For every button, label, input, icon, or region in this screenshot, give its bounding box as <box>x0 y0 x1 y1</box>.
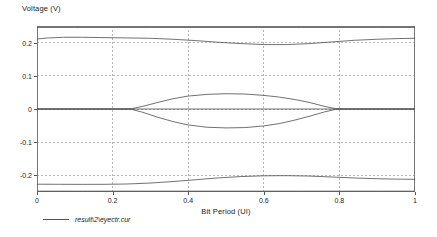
x-tick-mark <box>415 192 416 195</box>
y-tick-label: 0 <box>8 106 32 113</box>
y-tick-label: -0.1 <box>8 139 32 146</box>
plot-canvas <box>37 26 415 192</box>
x-tick-label: 0.2 <box>108 197 118 204</box>
x-tick-mark <box>113 192 114 195</box>
x-tick-mark <box>264 192 265 195</box>
y-axis-title: Voltage (V) <box>22 4 61 13</box>
eye-diagram-chart: Voltage (V) 0.20.10-0.1-0.2 00.20.40.60.… <box>0 0 437 237</box>
y-tick-label: 0.1 <box>8 72 32 79</box>
y-tick-label: 0.2 <box>8 39 32 46</box>
legend-line-swatch <box>43 219 69 220</box>
x-tick-label: 0.8 <box>335 197 345 204</box>
x-tick-label: 1 <box>413 197 417 204</box>
x-tick-mark <box>339 192 340 195</box>
x-tick-label: 0.4 <box>183 197 193 204</box>
y-tick-mark <box>34 43 37 44</box>
x-tick-label: 0 <box>35 197 39 204</box>
y-tick-mark <box>34 76 37 77</box>
plot-area <box>37 26 415 192</box>
chart-legend: result\2\eyectr.cur <box>43 216 130 223</box>
y-tick-mark <box>34 142 37 143</box>
legend-item-label: result\2\eyectr.cur <box>75 216 130 223</box>
x-tick-mark <box>188 192 189 195</box>
y-tick-label: -0.2 <box>8 172 32 179</box>
x-tick-mark <box>37 192 38 195</box>
y-tick-mark <box>34 109 37 110</box>
y-tick-mark <box>34 175 37 176</box>
x-axis-title: Bit Period (UI) <box>201 207 250 216</box>
x-tick-label: 0.6 <box>259 197 269 204</box>
